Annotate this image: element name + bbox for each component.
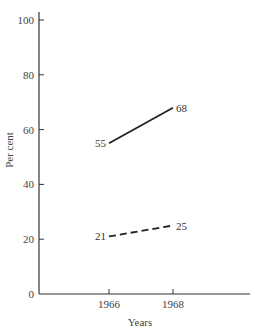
dashed-series-line (109, 226, 173, 237)
line-chart: 02040608010019661968 YearsPer cent556821… (0, 0, 255, 332)
axes: 02040608010019661968 (18, 12, 251, 310)
y-tick-label: 60 (23, 124, 35, 136)
data-label: 55 (95, 137, 107, 149)
y-tick-label: 80 (23, 69, 35, 81)
solid-series-line (109, 108, 173, 144)
y-tick-label: 40 (23, 178, 35, 190)
y-axis-label: Per cent (3, 132, 15, 168)
series-group (109, 108, 173, 237)
x-axis-label: Years (128, 316, 153, 328)
data-label: 68 (176, 102, 188, 114)
y-tick-label: 0 (29, 288, 35, 300)
x-tick-label: 1966 (98, 298, 121, 310)
y-tick-label: 100 (18, 14, 35, 26)
y-tick-label: 20 (23, 233, 35, 245)
x-tick-label: 1968 (162, 298, 185, 310)
data-label: 21 (95, 230, 106, 242)
data-label: 25 (176, 220, 188, 232)
